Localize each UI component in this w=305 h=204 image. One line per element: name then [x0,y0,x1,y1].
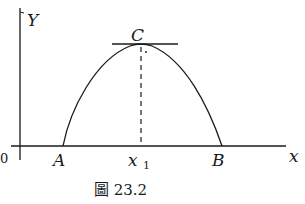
x1-label: x 1 [128,150,150,172]
curve-arc [63,44,222,146]
x-axis-label: x [289,146,299,166]
x1-base: x [128,150,138,170]
y-axis-label: Y [27,10,40,30]
figure-caption: 圖 23.2 [94,181,147,199]
point-c-label: C [131,25,144,45]
x1-subscript: 1 [143,159,150,172]
point-a-label: A [51,150,65,170]
figure-23-2: Y x 0 A B C x 1 圖 23.2 [0,0,305,204]
tick-mark [145,51,147,53]
point-b-label: B [211,150,225,170]
origin-label: 0 [0,151,8,166]
